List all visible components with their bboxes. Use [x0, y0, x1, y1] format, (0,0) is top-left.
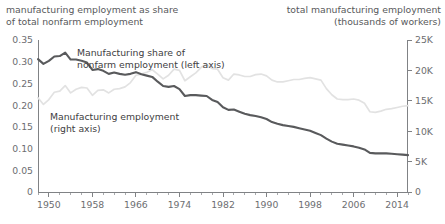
x-axis-tick-label: 1966 — [124, 199, 148, 210]
y-axis-tick-label: 0.15 — [12, 121, 33, 132]
svg-text:Manufacturing employment: Manufacturing employment — [50, 111, 179, 122]
series-line-employment-level — [38, 64, 408, 112]
svg-text:nonfarm employment (left axis): nonfarm employment (left axis) — [77, 59, 225, 70]
y-axis-tick-label: 0.30 — [12, 56, 33, 67]
y2-axis-tick-label: 25K — [415, 34, 434, 45]
y2-axis-tick-label: 10K — [415, 126, 434, 137]
chart-plot-area: 00.050.100.150.200.250.300.3505K10K15K20… — [0, 0, 445, 224]
svg-text:Manufacturing share of: Manufacturing share of — [77, 47, 186, 58]
svg-text:(right axis): (right axis) — [50, 123, 101, 134]
x-axis-tick-label: 1958 — [81, 199, 105, 210]
y2-axis-tick-label: 0 — [415, 186, 421, 197]
x-axis-tick-label: 1998 — [298, 199, 322, 210]
x-axis-tick-label: 1974 — [168, 199, 192, 210]
annotation-share-label: Manufacturing share ofnonfarm employment… — [77, 47, 225, 70]
y2-axis-tick-label: 15K — [415, 95, 434, 106]
x-axis-tick-label: 2006 — [342, 199, 366, 210]
y-axis-tick-label: 0.25 — [12, 78, 33, 89]
y-axis-tick-label: 0.10 — [12, 143, 33, 154]
y2-axis-tick-label: 5K — [415, 156, 428, 167]
x-axis-tick-label: 1950 — [37, 199, 61, 210]
y-axis-tick-label: 0.35 — [12, 34, 33, 45]
manufacturing-employment-chart: manufacturing employment as share of tot… — [0, 0, 445, 224]
annotation-level-label: Manufacturing employment(right axis) — [50, 111, 179, 134]
y-axis-tick-label: 0 — [27, 186, 33, 197]
y-axis-tick-label: 0.20 — [12, 100, 33, 111]
x-axis-tick-label: 2014 — [385, 199, 409, 210]
y2-axis-tick-label: 20K — [415, 65, 434, 76]
x-axis-tick-label: 1990 — [255, 199, 279, 210]
y-axis-tick-label: 0.05 — [12, 165, 33, 176]
x-axis-tick-label: 1982 — [211, 199, 235, 210]
